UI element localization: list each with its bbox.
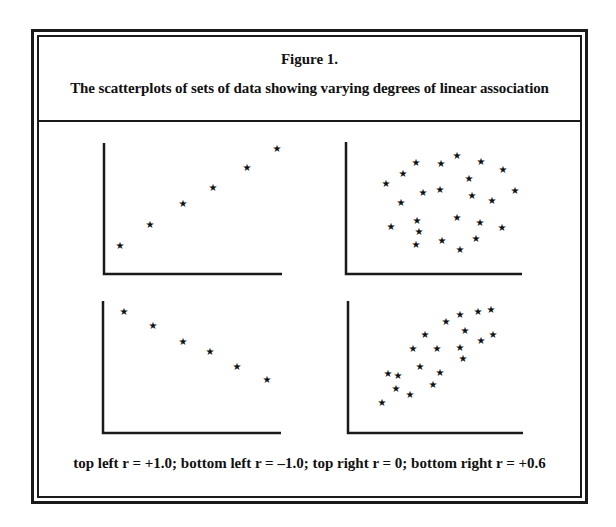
points-layer: ★★★★★★★★★★★★★★★★★★★★★★★★★★★★★★★★★★★★★★★★…	[116, 143, 520, 408]
star-marker-icon: ★	[438, 235, 447, 246]
scatterplot-grid: ★★★★★★★★★★★★★★★★★★★★★★★★★★★★★★★★★★★★★★★★…	[0, 0, 616, 527]
star-marker-icon: ★	[487, 304, 496, 315]
star-marker-icon: ★	[412, 239, 421, 250]
star-marker-icon: ★	[436, 367, 445, 378]
star-marker-icon: ★	[179, 198, 188, 209]
star-marker-icon: ★	[406, 389, 415, 400]
star-marker-icon: ★	[511, 185, 520, 196]
star-marker-icon: ★	[273, 143, 282, 154]
star-marker-icon: ★	[149, 320, 158, 331]
star-marker-icon: ★	[442, 316, 451, 327]
star-marker-icon: ★	[477, 335, 486, 346]
star-marker-icon: ★	[409, 343, 418, 354]
star-marker-icon: ★	[419, 187, 428, 198]
axes-top-right	[346, 142, 522, 274]
star-marker-icon: ★	[399, 168, 408, 179]
scatter-bottom-left: ★★★★★★	[120, 306, 272, 385]
star-marker-icon: ★	[465, 173, 474, 184]
star-marker-icon: ★	[456, 309, 465, 320]
star-marker-icon: ★	[378, 397, 387, 408]
star-marker-icon: ★	[146, 219, 155, 230]
axes-layer	[103, 142, 523, 433]
scatter-top-left: ★★★★★★	[116, 143, 282, 251]
star-marker-icon: ★	[437, 158, 446, 169]
star-marker-icon: ★	[416, 361, 425, 372]
star-marker-icon: ★	[179, 336, 188, 347]
star-marker-icon: ★	[468, 190, 477, 201]
star-marker-icon: ★	[499, 164, 508, 175]
scatter-top-right: ★★★★★★★★★★★★★★★★★★★★★★★★	[382, 150, 520, 255]
star-marker-icon: ★	[456, 342, 465, 353]
star-marker-icon: ★	[488, 195, 497, 206]
star-marker-icon: ★	[489, 329, 498, 340]
star-marker-icon: ★	[116, 240, 125, 251]
correlation-footnote: top left r = +1.0; bottom left r = –1.0;…	[37, 455, 582, 472]
star-marker-icon: ★	[233, 361, 242, 372]
star-marker-icon: ★	[384, 368, 393, 379]
star-marker-icon: ★	[120, 306, 129, 317]
axes-top-left	[104, 143, 282, 274]
star-marker-icon: ★	[206, 346, 215, 357]
star-marker-icon: ★	[397, 197, 406, 208]
star-marker-icon: ★	[433, 343, 442, 354]
star-marker-icon: ★	[459, 353, 468, 364]
star-marker-icon: ★	[392, 383, 401, 394]
star-marker-icon: ★	[474, 306, 483, 317]
star-marker-icon: ★	[382, 178, 391, 189]
star-marker-icon: ★	[498, 222, 507, 233]
star-marker-icon: ★	[243, 162, 252, 173]
star-marker-icon: ★	[436, 184, 445, 195]
star-marker-icon: ★	[453, 212, 462, 223]
star-marker-icon: ★	[461, 325, 470, 336]
star-marker-icon: ★	[387, 221, 396, 232]
star-marker-icon: ★	[413, 215, 422, 226]
star-marker-icon: ★	[472, 233, 481, 244]
star-marker-icon: ★	[415, 226, 424, 237]
star-marker-icon: ★	[456, 244, 465, 255]
star-marker-icon: ★	[476, 217, 485, 228]
star-marker-icon: ★	[453, 150, 462, 161]
scatter-bottom-right: ★★★★★★★★★★★★★★★★★★★★	[378, 304, 498, 408]
star-marker-icon: ★	[429, 379, 438, 390]
star-marker-icon: ★	[412, 157, 421, 168]
star-marker-icon: ★	[394, 370, 403, 381]
axes-bottom-left	[103, 301, 281, 433]
star-marker-icon: ★	[421, 329, 430, 340]
star-marker-icon: ★	[209, 182, 218, 193]
star-marker-icon: ★	[477, 156, 486, 167]
star-marker-icon: ★	[263, 374, 272, 385]
